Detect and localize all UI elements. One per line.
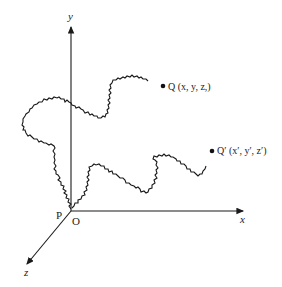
diagram-canvas [0, 0, 282, 287]
y-axis-label: y [68, 11, 73, 22]
z-axis [27, 211, 71, 264]
start-point-label: P [56, 210, 62, 221]
z-axis-label: z [24, 267, 28, 278]
point-q-prime-marker [210, 149, 215, 154]
random-walk-path-q-prime [72, 154, 206, 208]
random-walk-path-q [22, 75, 148, 209]
point-q-prime-label: Q′ (x′, y′, z′) [217, 145, 267, 156]
point-q-marker [161, 84, 166, 89]
x-axis-label: x [240, 214, 245, 225]
origin-label: O [72, 216, 80, 227]
point-q-label: Q (x, y, z,) [168, 81, 211, 92]
